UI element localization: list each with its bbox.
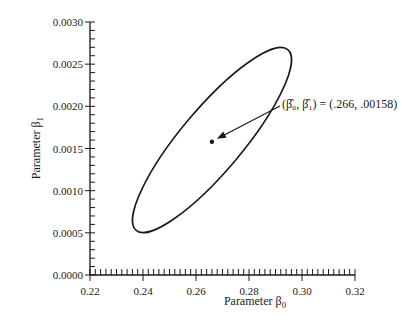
x-tick-label: 0.30 (292, 285, 312, 297)
plot-area (112, 30, 311, 251)
y-tick-label: 0.0010 (53, 185, 84, 197)
y-tick-label: 0.0005 (53, 227, 84, 239)
axes: 0.00000.00050.00100.00150.00200.00250.00… (53, 16, 365, 297)
annotation-arrow-line (223, 106, 280, 136)
y-tick-label: 0.0020 (53, 100, 84, 112)
y-tick-label: 0.0030 (53, 16, 84, 28)
y-axis-title: Parameter β1 (29, 117, 45, 179)
x-tick-label: 0.24 (133, 285, 153, 297)
x-tick-label: 0.26 (186, 285, 206, 297)
arrowhead-icon (217, 132, 227, 139)
point-estimate-annotation: (β̂₀, β̂₁) = (.266, .00158) (282, 97, 397, 111)
confidence-ellipse-chart: 0.00000.00050.00100.00150.00200.00250.00… (0, 0, 402, 329)
y-tick-label: 0.0025 (53, 58, 84, 70)
y-tick-label: 0.0015 (53, 143, 84, 155)
x-tick-label: 0.32 (345, 285, 364, 297)
point-estimate-dot (210, 140, 214, 144)
y-tick-label: 0.0000 (53, 269, 84, 281)
x-tick-label: 0.22 (80, 285, 99, 297)
x-axis-title: Parameter β0 (224, 294, 287, 310)
